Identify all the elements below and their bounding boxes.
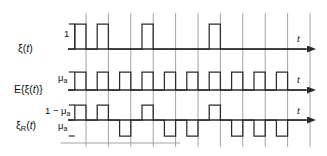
signal-waveforms	[61, 24, 306, 143]
axis-label-t-row3: t	[297, 106, 300, 116]
axis-label-t-row1: t	[297, 34, 300, 44]
time-axes	[68, 49, 307, 120]
signal-label-xi: ξ(t)	[18, 43, 33, 54]
waveform-xi	[68, 24, 306, 49]
amplitude-label-one-minus-mu-a: 1 − μa	[45, 106, 71, 117]
amplitude-label-mu-a-row2: μa	[58, 73, 67, 84]
axis-label-t-row2: t	[297, 75, 300, 85]
waveform-svg	[0, 0, 327, 156]
signal-label-expected-xi: E{ξ(t)}	[14, 84, 43, 95]
waveform-figure: ξ(t) 1 t E{ξ(t)} μa t ξR(t) 1 − μa μa t	[0, 0, 327, 156]
signal-label-xi-R: ξR(t)	[16, 120, 36, 133]
amplitude-label-one: 1	[64, 29, 69, 39]
waveform-expected	[68, 72, 306, 90]
amplitude-label-mu-a-row3: μa	[58, 121, 67, 132]
